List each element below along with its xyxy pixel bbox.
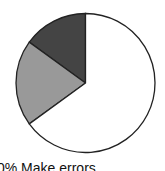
pie-chart <box>0 0 165 160</box>
caption-label: 0% Make errors <box>0 160 96 171</box>
